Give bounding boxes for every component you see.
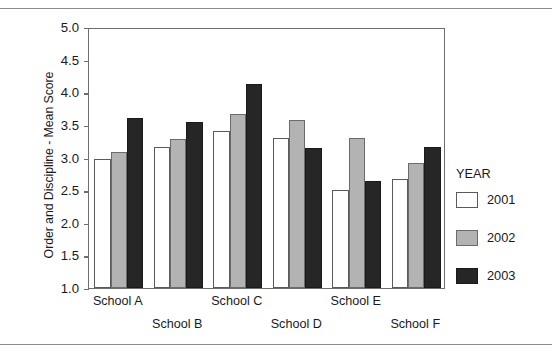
- bar-school-b-2001: [154, 147, 170, 288]
- legend-swatch-2002: [456, 230, 478, 246]
- legend-label-2001: 2001: [487, 192, 515, 207]
- bar-school-c-2001: [213, 131, 229, 288]
- bar-school-d-2001: [273, 138, 289, 288]
- legend-label-2003: 2003: [487, 268, 515, 283]
- y-tick-label: 3.5: [61, 118, 79, 133]
- legend-entries: 200120022003: [456, 190, 515, 285]
- x-axis-label-school-e: School E: [311, 294, 401, 308]
- y-tick-label: 3.0: [61, 151, 79, 166]
- legend-swatch-2003: [456, 268, 478, 284]
- bar-school-f-2003: [424, 147, 440, 288]
- x-axis-label-school-f: School F: [370, 317, 460, 331]
- bar-group: [94, 29, 143, 288]
- y-tick-label: 2.0: [61, 216, 79, 231]
- legend-item-2003[interactable]: 2003: [456, 266, 515, 285]
- bar-series-container: [89, 29, 444, 288]
- x-axis-label-school-d: School D: [251, 317, 341, 331]
- bar-school-f-2002: [408, 163, 424, 288]
- legend-label-2002: 2002: [487, 230, 515, 245]
- bar-school-e-2001: [332, 190, 348, 288]
- bar-school-b-2002: [170, 139, 186, 288]
- x-axis-label-school-b: School B: [132, 317, 222, 331]
- y-tick-label: 2.5: [61, 183, 79, 198]
- bar-school-c-2003: [246, 84, 262, 288]
- legend: YEAR 200120022003: [456, 166, 515, 304]
- bar-school-b-2003: [186, 122, 202, 288]
- legend-item-2002[interactable]: 2002: [456, 228, 515, 247]
- x-axis-label-school-c: School C: [192, 294, 282, 308]
- y-tick-label: 4.0: [61, 85, 79, 100]
- bar-group: [392, 29, 441, 288]
- bar-group: [213, 29, 262, 288]
- y-tick-label: 4.5: [61, 53, 79, 68]
- bar-school-f-2001: [392, 179, 408, 288]
- bar-school-e-2002: [349, 138, 365, 288]
- bar-group: [154, 29, 203, 288]
- bar-school-a-2001: [94, 159, 110, 288]
- legend-item-2001[interactable]: 2001: [456, 190, 515, 209]
- bar-chart-figure: Order and Discipline - Mean Score 5.04.5…: [0, 0, 552, 355]
- bar-group: [332, 29, 381, 288]
- bar-school-d-2002: [289, 120, 305, 288]
- bar-school-c-2002: [230, 114, 246, 288]
- legend-swatch-2001: [456, 192, 478, 208]
- bar-school-a-2003: [127, 118, 143, 288]
- bar-group: [273, 29, 322, 288]
- y-tick-label: 5.0: [61, 20, 79, 35]
- bottom-horizontal-rule: [0, 344, 552, 345]
- plot-area: 5.04.54.03.53.02.52.01.51.0: [88, 28, 445, 289]
- top-horizontal-rule: [0, 8, 552, 9]
- y-tick-label: 1.5: [61, 248, 79, 263]
- y-axis-title: Order and Discipline - Mean Score: [42, 30, 56, 300]
- x-axis-label-school-a: School A: [73, 294, 163, 308]
- bar-school-d-2003: [305, 148, 321, 288]
- bar-school-e-2003: [365, 181, 381, 288]
- y-tick-mark: [84, 289, 89, 290]
- bar-school-a-2002: [111, 152, 127, 288]
- legend-title: YEAR: [456, 166, 515, 181]
